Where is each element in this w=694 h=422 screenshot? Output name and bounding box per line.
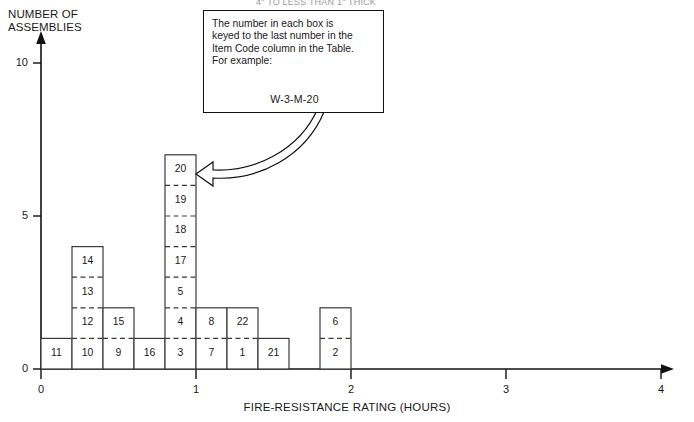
annotation-arrow bbox=[196, 108, 324, 186]
bar-cell-label: 22 bbox=[220, 316, 266, 327]
bar-cell-label: 21 bbox=[251, 347, 297, 358]
x-axis-arrowhead bbox=[661, 364, 674, 374]
x-tick-label-0: 0 bbox=[29, 383, 53, 395]
bar-cell-label: 5 bbox=[158, 286, 204, 297]
x-tick-label-4: 4 bbox=[649, 383, 673, 395]
bar-cell-label: 14 bbox=[65, 255, 111, 266]
bar-cell-label: 2 bbox=[313, 347, 359, 358]
x-tick-label-3: 3 bbox=[494, 383, 518, 395]
bar-cell-label: 13 bbox=[65, 286, 111, 297]
x-tick-label-2: 2 bbox=[339, 383, 363, 395]
callout-text: The number in each box is keyed to the l… bbox=[212, 18, 354, 67]
bar-cell-label: 19 bbox=[158, 194, 204, 205]
y-tick-label-10: 10 bbox=[4, 56, 28, 68]
bar-cell-label: 6 bbox=[313, 316, 359, 327]
bar-cell-label: 15 bbox=[96, 316, 142, 327]
bar-cell-label: 17 bbox=[158, 255, 204, 266]
callout-box: The number in each box is keyed to the l… bbox=[203, 10, 384, 113]
x-tick-label-1: 1 bbox=[184, 383, 208, 395]
y-tick-label-0: 0 bbox=[4, 362, 28, 374]
callout-example-code: W-3-M-20 bbox=[204, 93, 385, 105]
y-tick-label-5: 5 bbox=[4, 209, 28, 221]
y-axis-arrowhead bbox=[36, 31, 46, 44]
figure-canvas: 4" TO LESS THAN 1" THICK NUMBER OF ASSEM… bbox=[0, 0, 694, 422]
bar-cell-label: 20 bbox=[158, 163, 204, 174]
bar-cell-label: 18 bbox=[158, 224, 204, 235]
